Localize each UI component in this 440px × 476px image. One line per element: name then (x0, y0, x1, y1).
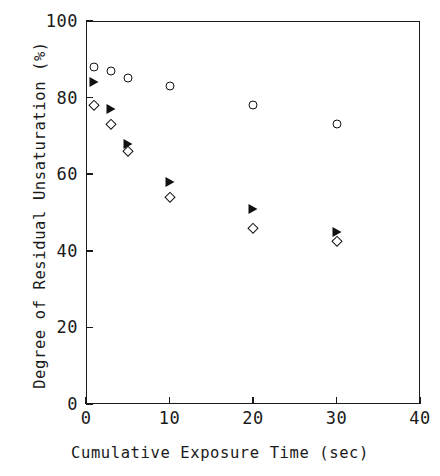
y-tick-mark (86, 173, 93, 175)
plot-frame (86, 21, 420, 404)
x-tick-mark (336, 397, 338, 404)
scatter-chart-figure: 010203040 020406080100 Cumulative Exposu… (0, 0, 440, 476)
x-tick-label: 40 (398, 408, 440, 428)
x-tick-mark (169, 397, 171, 404)
y-tick-mark (86, 97, 93, 99)
x-tick-label: 30 (315, 408, 359, 428)
y-tick-mark (86, 403, 93, 405)
y-tick-mark (86, 250, 93, 252)
x-tick-mark (419, 397, 421, 404)
y-tick-mark (86, 20, 93, 22)
x-axis-label: Cumulative Exposure Time (sec) (0, 444, 440, 462)
y-axis-label: Degree of Residual Unsaturation (%) (31, 5, 49, 425)
y-tick-mark (86, 327, 93, 329)
x-tick-label: 10 (148, 408, 192, 428)
x-tick-label: 20 (231, 408, 275, 428)
x-tick-mark (252, 397, 254, 404)
